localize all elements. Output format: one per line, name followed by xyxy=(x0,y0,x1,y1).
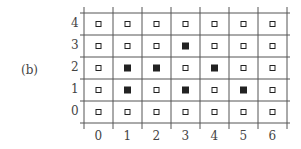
empty-site-marker xyxy=(154,44,159,49)
empty-site-marker xyxy=(212,22,217,27)
empty-site-marker xyxy=(125,22,130,27)
empty-site-marker xyxy=(154,88,159,93)
empty-site-marker xyxy=(96,88,101,93)
filled-site-marker xyxy=(182,43,189,50)
filled-site-marker xyxy=(124,87,131,94)
row-label: 1 xyxy=(71,83,79,95)
empty-site-marker xyxy=(270,22,275,27)
empty-site-marker xyxy=(212,44,217,49)
empty-site-marker xyxy=(125,110,130,115)
column-label: 6 xyxy=(269,130,277,142)
empty-site-marker xyxy=(241,66,246,71)
empty-site-marker xyxy=(183,22,188,27)
empty-site-marker xyxy=(270,88,275,93)
empty-site-marker xyxy=(96,66,101,71)
row-label: 0 xyxy=(71,105,79,117)
column-label: 3 xyxy=(182,130,190,142)
empty-site-marker xyxy=(270,110,275,115)
empty-site-marker xyxy=(125,44,130,49)
column-label: 1 xyxy=(124,130,132,142)
filled-site-marker xyxy=(153,65,160,72)
empty-site-marker xyxy=(154,22,159,27)
filled-site-marker xyxy=(124,65,131,72)
lattice-diagram: (b) 012345601234 xyxy=(0,0,301,149)
column-label: 5 xyxy=(240,130,248,142)
filled-site-marker xyxy=(182,87,189,94)
column-label: 0 xyxy=(95,130,103,142)
empty-site-marker xyxy=(96,110,101,115)
column-label: 2 xyxy=(153,130,161,142)
row-label: 2 xyxy=(71,61,79,73)
row-label: 3 xyxy=(71,39,79,51)
empty-site-marker xyxy=(212,110,217,115)
column-label: 4 xyxy=(211,130,219,142)
filled-site-marker xyxy=(211,65,218,72)
row-label: 4 xyxy=(71,17,79,29)
lattice-grid xyxy=(0,0,301,149)
empty-site-marker xyxy=(270,44,275,49)
empty-site-marker xyxy=(212,88,217,93)
empty-site-marker xyxy=(154,110,159,115)
empty-site-marker xyxy=(241,22,246,27)
empty-site-marker xyxy=(183,110,188,115)
empty-site-marker xyxy=(241,44,246,49)
empty-site-marker xyxy=(96,44,101,49)
filled-site-marker xyxy=(240,87,247,94)
empty-site-marker xyxy=(183,66,188,71)
empty-site-marker xyxy=(96,22,101,27)
empty-site-marker xyxy=(270,66,275,71)
empty-site-marker xyxy=(241,110,246,115)
